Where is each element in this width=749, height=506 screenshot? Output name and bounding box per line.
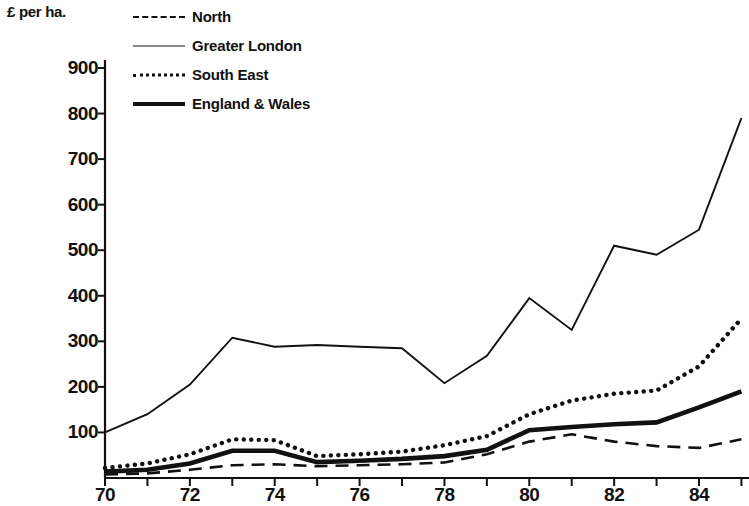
series-line-dashed <box>105 434 741 474</box>
series-line-dotted <box>105 319 741 468</box>
series-line-thin <box>105 118 741 432</box>
series-line-thick <box>105 391 741 471</box>
chart-figure: £ per ha. NorthGreater LondonSouth EastE… <box>0 0 749 506</box>
plot-area <box>0 0 749 506</box>
